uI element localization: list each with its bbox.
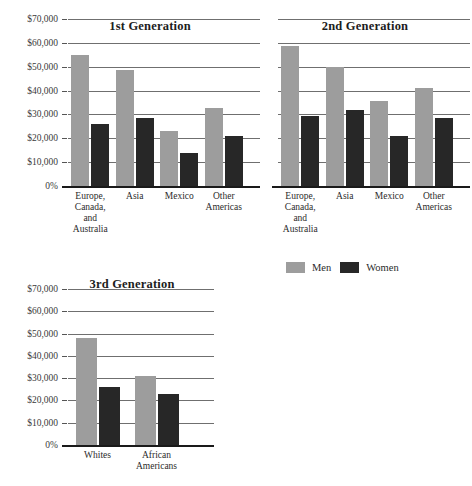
legend-item-men: Men [286, 262, 331, 273]
y-axis-tick [62, 423, 67, 424]
legend-label: Men [312, 262, 331, 273]
y-axis-tick [62, 67, 67, 68]
chart-panel-3rd-generation: 3rd Generation$70,000$60,000$50,000$40,0… [0, 289, 210, 486]
bar-women [225, 136, 243, 186]
y-axis-label: $60,000 [0, 306, 58, 316]
men-swatch [286, 262, 305, 273]
y-axis-label: $50,000 [0, 329, 58, 339]
x-axis-category-line: and [270, 213, 331, 224]
panel-title-1st-generation: 1st Generation [85, 19, 215, 34]
y-axis-tick [62, 400, 67, 401]
gridline [68, 114, 260, 115]
y-axis-label: $20,000 [0, 395, 58, 405]
y-axis-tick [62, 378, 67, 379]
y-axis-label: $10,000 [0, 418, 58, 428]
bar-men [370, 101, 388, 186]
y-axis-tick [62, 162, 67, 163]
bar-women [158, 394, 179, 445]
y-axis-label: $30,000 [0, 373, 58, 383]
chart-legend: MenWomen [286, 262, 399, 273]
gridline [68, 67, 260, 68]
y-axis-tick [62, 356, 67, 357]
chart-figure: 1st Generation$70,000$60,000$50,000$40,0… [0, 0, 472, 486]
legend-item-women: Women [340, 262, 398, 273]
y-axis-label: 0% [0, 440, 58, 450]
x-axis-category-line: Other [404, 191, 465, 202]
bar-women [435, 118, 453, 186]
y-axis-tick [62, 311, 67, 312]
gridline [68, 334, 214, 335]
bar-men [415, 88, 433, 186]
y-axis-label: $70,000 [0, 284, 58, 294]
x-axis-category-line: Australia [270, 224, 331, 235]
x-axis-category-line: Americans [119, 461, 194, 472]
gridline [68, 311, 214, 312]
y-axis-label: $40,000 [0, 351, 58, 361]
gridline [278, 91, 470, 92]
y-axis-tick [62, 138, 67, 139]
bar-men [205, 108, 223, 186]
x-axis-category-label: OtherAmericas [404, 191, 465, 213]
x-axis-baseline [62, 445, 214, 447]
bar-women [99, 387, 120, 445]
y-axis-tick [62, 43, 67, 44]
bar-men [135, 376, 156, 445]
bar-women [301, 116, 319, 186]
gridline [68, 43, 260, 44]
bar-men [71, 55, 89, 186]
gridline [278, 67, 470, 68]
y-axis-tick [62, 91, 67, 92]
x-axis-category-line: African [119, 450, 194, 461]
gridline [278, 43, 470, 44]
x-axis-baseline [62, 186, 260, 188]
gridline [68, 91, 260, 92]
y-axis-tick [62, 19, 67, 20]
bar-women [136, 118, 154, 186]
bar-men [76, 338, 97, 445]
panel-title-3rd-generation: 3rd Generation [62, 277, 202, 292]
y-axis-tick [62, 114, 67, 115]
bar-men [160, 131, 178, 186]
bar-women [346, 110, 364, 186]
bar-women [180, 153, 198, 186]
bar-men [326, 67, 344, 186]
bar-men [281, 46, 299, 186]
women-swatch [340, 262, 359, 273]
legend-label: Women [366, 262, 398, 273]
bar-men [116, 70, 134, 186]
x-axis-category-line: Americas [404, 202, 465, 213]
panel-title-2nd-generation: 2nd Generation [295, 19, 435, 34]
plot-area-3rd-generation: $70,000$60,000$50,000$40,000$30,000$20,0… [0, 289, 210, 445]
y-axis-tick [62, 334, 67, 335]
bar-women [91, 124, 109, 186]
bar-women [390, 136, 408, 186]
x-axis-category-line: Canada, [270, 202, 331, 213]
x-axis-category-label: AfricanAmericans [119, 450, 194, 472]
x-axis-baseline [272, 186, 470, 188]
